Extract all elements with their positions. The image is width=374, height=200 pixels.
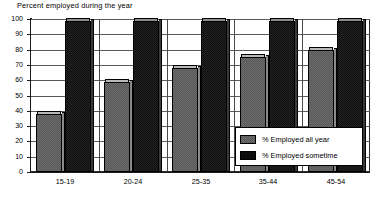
x-tick-label: 15-19 <box>31 178 99 186</box>
bar-chart: Percent employed during the year 0102030… <box>0 0 374 200</box>
y-tick-label: 30 <box>15 122 23 129</box>
y-tick-mark <box>27 65 31 66</box>
bar <box>36 114 62 172</box>
legend-item: % Employed sometime <box>240 147 358 163</box>
bar-face <box>172 68 198 172</box>
legend-label-sometime: % Employed sometime <box>262 151 338 160</box>
bar <box>133 21 159 172</box>
y-tick-label: 70 <box>15 61 23 68</box>
legend-swatch-all-year <box>240 135 256 144</box>
bar-side-shadow <box>363 19 366 172</box>
category-separator <box>167 19 168 171</box>
x-tick-label: 25-35 <box>167 178 235 186</box>
bar-face <box>201 21 227 172</box>
y-tick-mark <box>27 141 31 142</box>
x-tick-label: 20-24 <box>99 178 167 186</box>
chart-title: Percent employed during the year <box>17 1 133 10</box>
y-tick-mark <box>27 19 31 20</box>
y-tick-mark <box>27 172 31 173</box>
x-tick-label: 45-54 <box>302 178 370 186</box>
bar-face <box>36 114 62 172</box>
bar-side-shadow <box>159 19 162 172</box>
y-tick-mark <box>27 50 31 51</box>
y-tick-mark <box>27 157 31 158</box>
category-separator <box>99 19 100 171</box>
y-tick-label: 90 <box>15 30 23 37</box>
y-tick-mark <box>27 34 31 35</box>
bar <box>172 68 198 172</box>
bar <box>104 82 130 172</box>
y-tick-label: 0 <box>19 168 23 175</box>
y-tick-label: 40 <box>15 107 23 114</box>
y-tick-label: 10 <box>15 153 23 160</box>
y-tick-mark <box>27 96 31 97</box>
legend-swatch-sometime <box>240 151 256 160</box>
legend-label-all-year: % Employed all year <box>262 135 329 144</box>
y-tick-label: 60 <box>15 76 23 83</box>
chart-legend: % Employed all year % Employed sometime <box>235 127 363 166</box>
y-tick-mark <box>27 126 31 127</box>
bar-face <box>104 82 130 172</box>
y-tick-label: 20 <box>15 137 23 144</box>
y-axis-ticks: 0102030405060708090100 <box>0 0 28 200</box>
y-tick-mark <box>27 80 31 81</box>
y-tick-label: 100 <box>11 15 23 22</box>
bar <box>65 21 91 172</box>
bar-face <box>65 21 91 172</box>
bar-face <box>133 21 159 172</box>
y-tick-label: 50 <box>15 92 23 99</box>
bar-side-shadow <box>91 19 94 172</box>
bar <box>201 21 227 172</box>
legend-item: % Employed all year <box>240 131 358 147</box>
x-tick-label: 35-44 <box>234 178 302 186</box>
y-tick-mark <box>27 111 31 112</box>
y-tick-label: 80 <box>15 46 23 53</box>
bar-side-shadow <box>227 19 230 172</box>
